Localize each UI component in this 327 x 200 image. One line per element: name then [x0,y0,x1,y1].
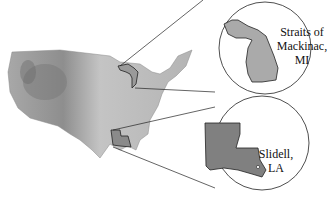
diagram-canvas: Straits of Mackinac, MI Slidell, LA [0,0,327,200]
label-mackinac: Straits of Mackinac, MI [276,25,327,67]
label-slidell-line2: LA [258,161,294,175]
label-slidell: Slidell, LA [258,147,294,175]
label-slidell-line1: Slidell, [258,147,294,161]
label-mackinac-line1: Straits of [276,25,327,39]
label-mackinac-line3: MI [276,53,327,67]
label-mackinac-line2: Mackinac, [276,39,327,53]
